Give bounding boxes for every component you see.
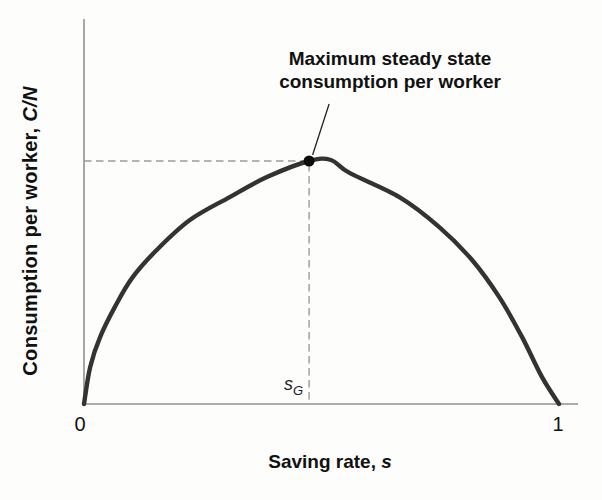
- annotation-leader-line: [313, 104, 330, 155]
- golden-rule-figure: Consumption per worker, C/N Maximum stea…: [0, 0, 602, 500]
- y-axis-label-variable: C/N: [19, 86, 41, 121]
- x-axis-label: Saving rate, s: [180, 451, 480, 473]
- x-axis-label-variable: s: [381, 451, 392, 472]
- x-tick-1: 1: [543, 413, 573, 436]
- consumption-curve: [84, 159, 559, 404]
- y-axis-label-text: Consumption per worker,: [19, 122, 41, 376]
- y-axis-label: Consumption per worker, C/N: [18, 51, 42, 411]
- golden-rule-dashed-guides: [84, 161, 309, 404]
- annotation-line-1: Maximum steady state: [250, 47, 530, 70]
- x-axis-label-text: Saving rate,: [268, 451, 381, 472]
- golden-rule-saving-rate-label: sG: [263, 374, 303, 395]
- sg-label-main: s: [284, 374, 293, 394]
- annotation-line-2: consumption per worker: [250, 70, 530, 93]
- sg-label-subscript: G: [293, 383, 303, 398]
- golden-rule-point: [304, 156, 315, 167]
- x-tick-0: 0: [65, 413, 95, 436]
- max-consumption-annotation: Maximum steady state consumption per wor…: [250, 47, 530, 93]
